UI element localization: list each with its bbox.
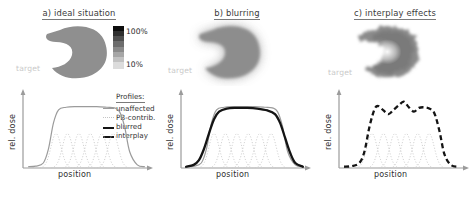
- panel-b-pb-curve-5: [255, 134, 287, 168]
- panel-a-target-label: target: [16, 64, 40, 73]
- panel-c: c) interplay effects: [316, 0, 474, 198]
- colorbar-max-label: 100%: [126, 27, 148, 36]
- panel-a-curve-unaffected: [28, 107, 145, 167]
- panel-b-pb-curve-2: [221, 134, 253, 168]
- panel-a-axes: [21, 89, 153, 170]
- dose-colorbar: [113, 26, 124, 69]
- panel-b-plot-canvas: [158, 88, 316, 198]
- panel-b-target-shape: [158, 20, 316, 86]
- panel-a-pb-curve-1: [51, 134, 83, 168]
- panel-c-title-text: c) interplay effects: [354, 8, 436, 20]
- panel-a-plot-canvas: [0, 88, 158, 198]
- panel-b-title-text: b) blurring: [214, 8, 260, 20]
- panel-c-plot-canvas: [316, 88, 474, 198]
- panel-a-pb-curve-4: [85, 134, 117, 168]
- panel-a-pb-curve-2: [63, 134, 95, 168]
- panel-a-ylabel: rel. dose: [8, 114, 17, 150]
- panel-b-xlabel: position: [216, 170, 249, 179]
- panel-a-dose-map: target 100% 10%: [0, 20, 158, 86]
- panel-c-pb-curve-2: [379, 134, 411, 168]
- panel-b-dose-map: target: [158, 20, 316, 86]
- panel-c-curve-interplay: [344, 102, 458, 167]
- panel-b: b) blurring target: [158, 0, 316, 198]
- panel-b-title: b) blurring: [158, 8, 316, 18]
- panel-a-plot: position rel. dose: [0, 88, 158, 198]
- panel-c-xlabel: position: [374, 170, 407, 179]
- panel-a: a) ideal situation target 100% 10% Profi…: [0, 0, 158, 198]
- colorbar-min-label: 10%: [126, 60, 143, 69]
- panel-b-pb-curve-4: [243, 134, 275, 168]
- panel-c-pb-curve-4: [401, 134, 433, 168]
- panel-c-target-label: target: [328, 68, 352, 77]
- panel-b-target-label: target: [168, 66, 192, 75]
- panel-c-title: c) interplay effects: [316, 8, 474, 18]
- panel-c-ylabel: rel. dose: [324, 114, 333, 150]
- panel-c-pb-curves: [356, 134, 445, 168]
- panel-b-ylabel: rel. dose: [166, 114, 175, 150]
- panel-c-pb-curve-1: [367, 134, 399, 168]
- panel-b-pb-curve-3: [232, 134, 264, 168]
- panel-b-axes: [179, 89, 311, 170]
- panel-a-pb-curve-5: [97, 134, 129, 168]
- panel-a-pb-curve-0: [40, 134, 72, 168]
- panel-b-plot: position rel. dose: [158, 88, 316, 198]
- panel-b-pb-curve-1: [209, 134, 241, 168]
- panel-c-pb-curve-3: [390, 134, 422, 168]
- panel-b-pb-curves: [198, 134, 287, 168]
- figure-root: a) ideal situation target 100% 10% Profi…: [0, 0, 475, 198]
- panel-a-title: a) ideal situation: [0, 8, 158, 18]
- panel-a-title-text: a) ideal situation: [42, 8, 115, 20]
- panel-a-xlabel: position: [58, 170, 91, 179]
- panel-a-pb-curve-3: [74, 134, 106, 168]
- panel-c-dose-map: target: [316, 20, 474, 86]
- panel-c-plot: position rel. dose: [316, 88, 474, 198]
- panel-a-pb-curves: [40, 134, 129, 168]
